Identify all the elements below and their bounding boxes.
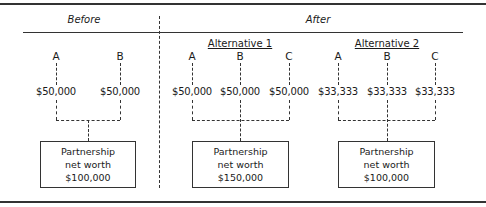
connector xyxy=(435,100,436,120)
box-line2: net worth xyxy=(364,158,410,171)
top-rule xyxy=(0,3,486,5)
connector xyxy=(338,120,435,121)
header-underline xyxy=(23,32,463,33)
partner-amount: $50,000 xyxy=(220,86,260,97)
partner-amount: $33,333 xyxy=(367,86,407,97)
bottom-rule xyxy=(0,201,486,203)
connector xyxy=(289,100,290,120)
box-line1: Partnership xyxy=(359,145,413,158)
partner-amount: $50,000 xyxy=(172,86,212,97)
box-line2: net worth xyxy=(218,158,264,171)
connector xyxy=(192,100,193,120)
before-after-divider xyxy=(159,16,160,188)
partnership-net-worth-box: Partnership net worth $100,000 xyxy=(40,141,136,188)
box-value: $150,000 xyxy=(218,171,263,184)
partner-label: A xyxy=(52,50,59,62)
box-value: $100,000 xyxy=(364,171,409,184)
connector xyxy=(192,120,289,121)
box-line1: Partnership xyxy=(213,145,267,158)
connector xyxy=(435,63,436,85)
connector xyxy=(338,100,339,120)
after-header: After xyxy=(306,14,331,25)
partner-amount: $50,000 xyxy=(100,86,140,97)
partner-label: B xyxy=(383,50,390,62)
connector xyxy=(56,100,57,120)
connector xyxy=(192,63,193,85)
alternative1-title: Alternative 1 xyxy=(208,38,272,49)
partner-label: A xyxy=(188,50,195,62)
connector xyxy=(240,63,241,85)
partner-label: B xyxy=(236,50,243,62)
box-line1: Partnership xyxy=(61,145,115,158)
partner-amount: $50,000 xyxy=(36,86,76,97)
partner-label: B xyxy=(116,50,123,62)
partner-label: C xyxy=(431,50,438,62)
connector xyxy=(120,63,121,85)
partner-amount: $33,333 xyxy=(318,86,358,97)
connector xyxy=(338,63,339,85)
connector xyxy=(88,120,89,141)
partner-label: C xyxy=(285,50,292,62)
connector xyxy=(120,100,121,120)
connector xyxy=(56,63,57,85)
before-header: Before xyxy=(68,14,101,25)
partnership-net-worth-box: Partnership net worth $150,000 xyxy=(192,141,289,188)
box-value: $100,000 xyxy=(65,171,110,184)
partner-amount: $33,333 xyxy=(415,86,455,97)
partner-amount: $50,000 xyxy=(269,86,309,97)
alternative2-title: Alternative 2 xyxy=(355,38,419,49)
connector xyxy=(289,63,290,85)
connector xyxy=(387,63,388,85)
partner-label: A xyxy=(334,50,341,62)
partnership-net-worth-box: Partnership net worth $100,000 xyxy=(338,141,435,188)
box-line2: net worth xyxy=(65,158,111,171)
